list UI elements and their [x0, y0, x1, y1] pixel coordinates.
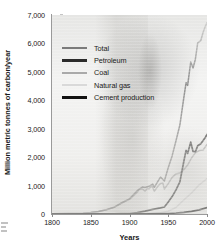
series-line-petroleum: [52, 134, 207, 214]
series-line-coal: [52, 144, 207, 213]
y-axis-line: [51, 14, 52, 215]
legend-swatch: [62, 96, 87, 99]
y-tick-label: 7,000: [14, 11, 45, 20]
legend-swatch: [62, 72, 87, 74]
legend-item: Petroleum: [62, 54, 192, 66]
y-axis-ticks: 01,0002,0003,0004,0005,0006,0007,000: [14, 0, 45, 251]
legend-label: Total: [94, 44, 109, 53]
legend-swatch: [62, 84, 87, 86]
x-tick-label: 1900: [122, 218, 138, 227]
x-tick-mark: [130, 214, 131, 217]
legend-label: Cement production: [94, 93, 154, 102]
page-margin-artifact: [1, 222, 8, 238]
y-tick-label: 4,000: [14, 96, 45, 105]
y-axis-title-text: Million metric tonnes of carbon/year: [4, 50, 13, 175]
x-tick-label: 1800: [44, 218, 60, 227]
y-tick-label: 2,000: [14, 153, 45, 162]
figure-container: Million metric tonnes of carbon/year 01,…: [0, 0, 218, 251]
x-tick-label: 1950: [160, 218, 176, 227]
legend-label: Petroleum: [94, 56, 127, 65]
y-tick-label: 5,000: [14, 67, 45, 76]
x-axis-title: Years: [52, 233, 207, 242]
legend-swatch: [62, 59, 87, 62]
y-tick-label: 1,000: [14, 181, 45, 190]
x-tick-mark: [207, 214, 208, 217]
x-tick-label: 2000: [199, 218, 215, 227]
legend-item: Coal: [62, 67, 192, 79]
legend-label: Natural gas: [94, 81, 130, 90]
legend-item: Cement production: [62, 92, 192, 104]
y-tick-label: 3,000: [14, 124, 45, 133]
series-line-natural-gas: [52, 178, 207, 214]
y-tick-label: 6,000: [14, 39, 45, 48]
legend-swatch: [62, 47, 87, 49]
x-tick-mark: [91, 214, 92, 217]
x-tick-label: 1850: [83, 218, 99, 227]
x-tick-mark: [168, 214, 169, 217]
legend-item: Total: [62, 42, 192, 54]
legend-label: Coal: [94, 68, 109, 77]
x-tick-mark: [52, 214, 53, 217]
legend-item: Natural gas: [62, 79, 192, 91]
y-tick-label: 0: [14, 210, 45, 219]
chart-legend: TotalPetroleumCoalNatural gasCement prod…: [62, 42, 192, 104]
